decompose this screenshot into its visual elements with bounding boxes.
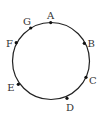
point-a: [49, 21, 52, 24]
point-f: [15, 41, 18, 44]
label-a: A: [46, 10, 55, 21]
point-c: [84, 76, 87, 79]
point-d: [65, 97, 68, 100]
label-g: G: [23, 16, 31, 27]
label-b: B: [88, 38, 95, 49]
point-e: [17, 83, 20, 86]
label-e: E: [7, 82, 14, 93]
point-b: [83, 42, 86, 45]
label-f: F: [6, 38, 13, 49]
circle: [13, 23, 90, 100]
label-c: C: [89, 75, 97, 86]
label-d: D: [66, 102, 74, 113]
circle-diagram: A B C D E F G: [0, 0, 99, 114]
